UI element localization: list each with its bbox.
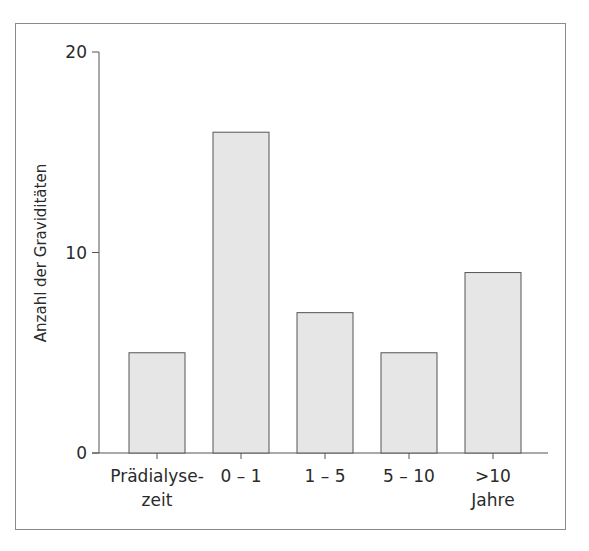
y-tick-label: 0 (76, 443, 87, 463)
y-axis: 01020 (65, 42, 99, 463)
x-tick-label: >10 (475, 466, 511, 486)
bar-0 (129, 353, 185, 453)
x-tick-label: Jahre (470, 490, 514, 510)
x-tick-label: 1 – 5 (305, 466, 346, 486)
bar-2 (297, 313, 353, 453)
bar-4 (465, 273, 521, 453)
bars (129, 132, 521, 453)
y-tick-label: 20 (65, 42, 87, 62)
x-tick-label: zeit (142, 490, 173, 510)
bar-1 (213, 132, 269, 453)
bar-3 (381, 353, 437, 453)
x-tick-label: Prädialyse- (110, 466, 204, 486)
y-tick-label: 10 (65, 243, 87, 263)
x-axis: Prädialyse-zeit0 – 11 – 55 – 10>10Jahre (92, 453, 548, 510)
x-tick-label: 0 – 1 (221, 466, 262, 486)
y-axis-title: Anzahl der Graviditäten (32, 164, 50, 342)
x-tick-label: 5 – 10 (383, 466, 435, 486)
bar-chart: 01020 Prädialyse-zeit0 – 11 – 55 – 10>10… (0, 0, 589, 551)
